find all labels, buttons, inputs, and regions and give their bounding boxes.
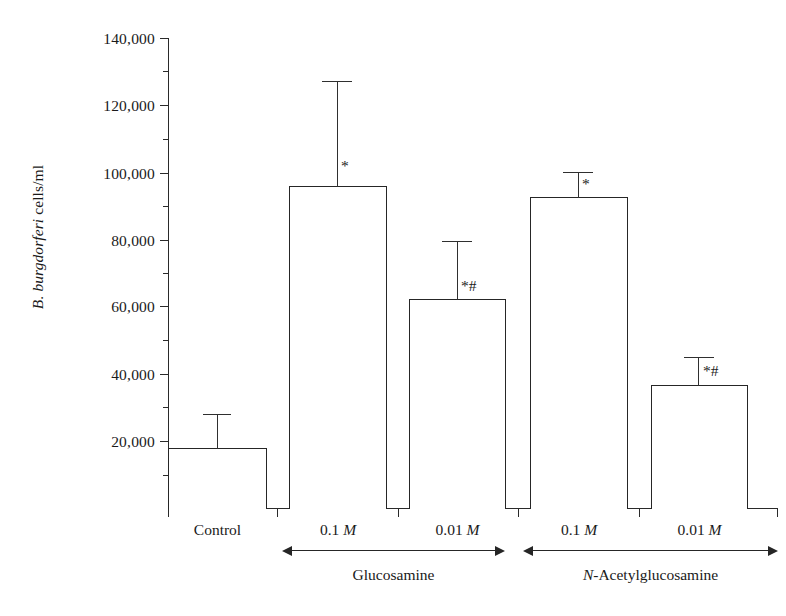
bar-glucosamine-0.01M xyxy=(409,299,506,509)
error-bar-stem-glucosamine-0.01M xyxy=(457,241,458,300)
group-label-nag-text: -Acetylglucosamine xyxy=(593,566,718,583)
x-category-label-nacetylglucosamine-0.01M: 0.01 M xyxy=(651,521,748,539)
significance-marker-glucosamine-0.1M: * xyxy=(341,158,349,174)
bar-chart-figure: B. burgdorferi cells/ml 140,000 120,000 … xyxy=(0,0,786,616)
x-category-label-value-1: 0.1 xyxy=(320,521,343,538)
x-tick-4 xyxy=(639,508,640,517)
x-tick-0 xyxy=(168,508,169,517)
error-bar-cap-glucosamine-0.1M xyxy=(322,81,352,82)
y-tick-minor-70000 xyxy=(163,273,169,274)
y-tick-minor-50000 xyxy=(163,340,169,341)
x-category-label-glucosamine-0.01M: 0.01 M xyxy=(409,521,506,539)
x-category-label-unit-3: M xyxy=(584,521,597,538)
group-arrow-glucosamine xyxy=(282,546,505,556)
y-tick-label-60000: 60,000 xyxy=(35,299,155,315)
x-category-label-value-4: 0.01 xyxy=(678,521,709,538)
x-category-label-value-3: 0.1 xyxy=(561,521,584,538)
arrow-shaft xyxy=(531,550,770,551)
y-tick-label-40000: 40,000 xyxy=(35,367,155,383)
significance-marker-glucosamine-0.01M: *# xyxy=(461,278,477,294)
y-tick-label-20000: 20,000 xyxy=(35,434,155,450)
y-tick-label-100000: 100,000 xyxy=(35,166,155,182)
group-label-glucosamine: Glucosamine xyxy=(282,566,505,584)
group-label-nag-prefix: N xyxy=(583,566,593,583)
bar-glucosamine-0.1M xyxy=(289,186,387,509)
error-bar-cap-nacetylglucosamine-0.01M xyxy=(684,357,714,358)
arrow-head-right-icon xyxy=(768,546,778,556)
error-bar-stem-control xyxy=(217,414,218,449)
error-bar-cap-nacetylglucosamine-0.1M xyxy=(563,172,593,173)
y-tick-major-140000 xyxy=(160,38,169,39)
x-category-label-unit-4: M xyxy=(709,521,722,538)
error-bar-stem-glucosamine-0.1M xyxy=(337,81,338,187)
bar-nacetylglucosamine-0.1M xyxy=(530,197,628,509)
x-category-label-control: Control xyxy=(168,521,267,539)
y-tick-major-20000 xyxy=(160,441,169,442)
y-tick-label-80000: 80,000 xyxy=(35,233,155,249)
significance-marker-nacetylglucosamine-0.1M: * xyxy=(582,176,590,192)
x-category-label-unit-1: M xyxy=(343,521,356,538)
bar-nacetylglucosamine-0.01M xyxy=(651,385,748,509)
error-bar-stem-nacetylglucosamine-0.1M xyxy=(578,172,579,198)
y-tick-major-100000 xyxy=(160,173,169,174)
y-tick-major-80000 xyxy=(160,240,169,241)
group-label-glucosamine-text: Glucosamine xyxy=(353,566,435,583)
y-tick-label-140000: 140,000 xyxy=(35,31,155,47)
y-tick-major-40000 xyxy=(160,374,169,375)
bar-control xyxy=(168,448,267,509)
x-category-label-glucosamine-0.1M: 0.1 M xyxy=(289,521,387,539)
y-tick-minor-130000 xyxy=(163,71,169,72)
significance-marker-nacetylglucosamine-0.01M: *# xyxy=(703,363,719,379)
x-category-label-value-2: 0.01 xyxy=(436,521,467,538)
y-tick-minor-90000 xyxy=(163,206,169,207)
y-tick-label-120000: 120,000 xyxy=(35,98,155,114)
y-tick-minor-110000 xyxy=(163,139,169,140)
group-label-nacetylglucosamine: N-Acetylglucosamine xyxy=(523,566,778,584)
y-tick-major-60000 xyxy=(160,306,169,307)
arrow-head-right-icon xyxy=(495,546,505,556)
x-category-label-nacetylglucosamine-0.1M: 0.1 M xyxy=(530,521,628,539)
error-bar-cap-glucosamine-0.01M xyxy=(442,241,472,242)
y-tick-major-120000 xyxy=(160,105,169,106)
y-tick-minor-30000 xyxy=(163,407,169,408)
arrow-shaft xyxy=(290,550,497,551)
error-bar-stem-nacetylglucosamine-0.01M xyxy=(698,357,699,386)
x-tick-1 xyxy=(277,508,278,517)
x-category-label-control-text: Control xyxy=(194,521,241,538)
x-tick-3 xyxy=(518,508,519,517)
group-arrow-nacetylglucosamine xyxy=(523,546,778,556)
x-tick-5 xyxy=(777,508,778,517)
x-category-label-unit-2: M xyxy=(467,521,480,538)
error-bar-cap-control xyxy=(203,414,231,415)
x-tick-2 xyxy=(398,508,399,517)
